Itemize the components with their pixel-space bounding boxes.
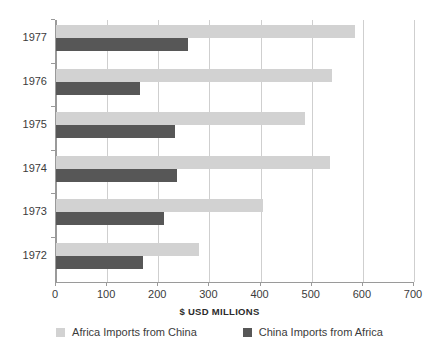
bar[interactable] [56, 199, 263, 212]
bar-chart: 197719761975197419731972 010020030040050… [0, 0, 439, 353]
y-axis-tick [51, 63, 55, 64]
bar[interactable] [56, 38, 188, 51]
x-axis-label: 700 [393, 288, 433, 300]
x-axis-label: 500 [291, 288, 331, 300]
gridline [414, 20, 415, 282]
chart-legend: Africa Imports from China China Imports … [0, 326, 439, 338]
y-axis-label: 1976 [0, 75, 47, 88]
x-axis-tick [106, 282, 107, 286]
bar[interactable] [56, 212, 164, 225]
bar-group [56, 156, 413, 186]
y-axis-label: 1977 [0, 31, 47, 44]
y-axis-label: 1975 [0, 118, 47, 131]
legend-swatch-icon-dark [243, 328, 252, 337]
bar[interactable] [56, 82, 140, 95]
x-axis-line [55, 282, 414, 283]
x-axis-tick [260, 282, 261, 286]
bar[interactable] [56, 25, 355, 38]
y-axis-tick [51, 237, 55, 238]
y-axis-label: 1974 [0, 162, 47, 175]
bar-group [56, 199, 413, 229]
bar[interactable] [56, 169, 177, 182]
x-axis-tick [413, 282, 414, 286]
x-axis-label: 100 [86, 288, 126, 300]
bar-group [56, 112, 413, 142]
legend-label: Africa Imports from China [72, 326, 197, 338]
x-axis-tick [157, 282, 158, 286]
y-axis-tick [51, 106, 55, 107]
y-axis-tick [51, 19, 55, 20]
legend-label: China Imports from Africa [259, 326, 383, 338]
y-axis-label: 1972 [0, 249, 47, 262]
bar[interactable] [56, 243, 199, 256]
legend-swatch-icon-light [56, 328, 65, 337]
y-axis-tick [51, 150, 55, 151]
bar-group [56, 25, 413, 55]
x-axis-label: 600 [342, 288, 382, 300]
y-axis-tick [51, 193, 55, 194]
x-axis-label: 0 [35, 288, 75, 300]
bar-group [56, 69, 413, 99]
x-axis-tick [311, 282, 312, 286]
x-axis-label: 300 [188, 288, 228, 300]
legend-item-africa-imports-from-china[interactable]: Africa Imports from China [56, 326, 197, 338]
bar[interactable] [56, 69, 332, 82]
x-axis-title: $ USD MILLIONS [0, 306, 439, 317]
x-axis-label: 200 [137, 288, 177, 300]
legend-item-china-imports-from-africa[interactable]: China Imports from Africa [243, 326, 383, 338]
plot-area [55, 20, 413, 282]
x-axis-label: 400 [240, 288, 280, 300]
x-axis-tick [208, 282, 209, 286]
bar[interactable] [56, 112, 305, 125]
y-axis-label: 1973 [0, 205, 47, 218]
bar[interactable] [56, 156, 330, 169]
x-axis-tick [55, 282, 56, 286]
bar[interactable] [56, 125, 175, 138]
bar[interactable] [56, 256, 143, 269]
bar-group [56, 243, 413, 273]
x-axis-tick [362, 282, 363, 286]
